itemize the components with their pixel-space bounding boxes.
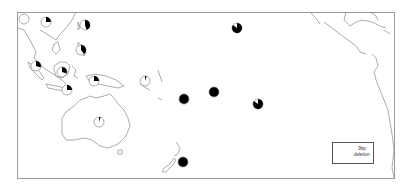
- pie-marker: [80, 20, 90, 30]
- pie-marker: [209, 87, 219, 97]
- pie-marker: [178, 157, 188, 167]
- legend-box: 9bp deletion: [332, 142, 374, 164]
- pie-marker: [57, 67, 67, 77]
- legend-label-line2: deletion: [351, 152, 373, 158]
- pie-marker: [253, 99, 263, 109]
- new-zealand-coastline: [162, 142, 180, 172]
- pie-marker: [232, 23, 242, 33]
- pie-marker: [89, 76, 99, 86]
- pie-marker: [31, 61, 41, 71]
- legend-label: 9bp deletion: [351, 146, 373, 157]
- pie-marker: [41, 17, 51, 27]
- pie-marker: [179, 94, 189, 104]
- pie-marker: [76, 45, 86, 55]
- pie-marker: [140, 76, 150, 86]
- new-guinea-coastline: [72, 66, 124, 88]
- marker-layer: [19, 14, 263, 167]
- pie-marker: [19, 14, 29, 24]
- pie-marker: [62, 85, 72, 95]
- pie-marker: [94, 117, 104, 127]
